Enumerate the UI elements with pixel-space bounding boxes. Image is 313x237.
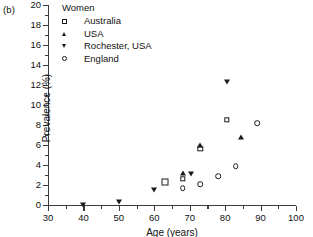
y-tick-18 — [43, 25, 48, 26]
data-point — [180, 176, 185, 181]
marker-filled-triangle-up — [62, 32, 66, 36]
data-point — [151, 188, 157, 193]
marker-filled-triangle-down — [224, 80, 230, 85]
data-point — [233, 163, 239, 169]
legend: Women AustraliaUSARochester, USAEngland — [62, 2, 152, 65]
x-tick-label-40: 40 — [78, 213, 89, 223]
legend-row-usa: USA — [62, 28, 152, 41]
y-minor-tick-19 — [45, 15, 48, 16]
legend-label: Rochester, USA — [76, 40, 152, 52]
marker-open-circle — [215, 173, 221, 179]
legend-label: USA — [76, 28, 104, 40]
marker-filled-triangle-down — [151, 188, 157, 193]
x-tick-label-70: 70 — [184, 213, 195, 223]
data-point — [224, 117, 229, 122]
legend-row-rochester-usa: Rochester, USA — [62, 40, 152, 53]
data-point — [254, 120, 260, 126]
data-point — [224, 80, 230, 85]
x-tick-label-50: 50 — [114, 213, 125, 223]
y-axis-title: Prevalence (%) — [41, 74, 52, 142]
data-point — [180, 185, 186, 191]
x-axis-title: Age (years) — [146, 227, 198, 237]
panel-label: (b) — [3, 4, 15, 15]
x-tick-50 — [119, 206, 120, 211]
marker-filled-triangle-down — [80, 203, 86, 208]
y-tick-label-2: 2 — [36, 180, 41, 190]
marker-open-circle — [233, 163, 239, 169]
x-tick-label-80: 80 — [220, 213, 231, 223]
figure-panel-b: (b) 02468101214161820 30405060708090100 … — [0, 0, 313, 237]
x-tick-80 — [225, 206, 226, 211]
data-point — [215, 173, 221, 179]
marker-open-circle — [180, 185, 186, 191]
y-tick-14 — [43, 65, 48, 66]
y-tick-6 — [43, 145, 48, 146]
marker-open-square — [161, 179, 168, 186]
y-tick-4 — [43, 165, 48, 166]
data-point — [238, 135, 244, 140]
x-tick-70 — [190, 206, 191, 211]
x-tick-30 — [48, 206, 49, 211]
data-point — [161, 179, 168, 186]
x-tick-label-30: 30 — [43, 213, 54, 223]
x-minor-tick-85 — [243, 206, 244, 209]
x-minor-tick-75 — [207, 206, 208, 209]
y-minor-tick-1 — [45, 195, 48, 196]
data-point — [198, 181, 204, 187]
y-tick-16 — [43, 45, 48, 46]
data-point — [197, 143, 203, 148]
marker-open-square — [62, 19, 67, 24]
marker-filled-triangle-up — [180, 171, 186, 176]
marker-open-square — [180, 176, 185, 181]
x-minor-tick-45 — [101, 206, 102, 209]
legend-row-england: England — [62, 53, 152, 66]
x-tick-100 — [296, 206, 297, 211]
legend-marker-usa — [62, 32, 76, 36]
y-tick-label-16: 16 — [30, 40, 41, 50]
legend-marker-england — [62, 56, 76, 61]
legend-label: England — [76, 53, 119, 65]
x-minor-tick-95 — [278, 206, 279, 209]
y-tick-label-4: 4 — [36, 160, 41, 170]
data-point — [188, 172, 194, 177]
y-tick-label-12: 12 — [30, 80, 41, 90]
x-tick-60 — [154, 206, 155, 211]
y-tick-label-10: 10 — [30, 100, 41, 110]
y-minor-tick-15 — [45, 55, 48, 56]
marker-open-square — [224, 117, 229, 122]
y-tick-2 — [43, 185, 48, 186]
y-tick-label-0: 0 — [36, 200, 41, 210]
x-tick-label-90: 90 — [255, 213, 266, 223]
y-minor-tick-3 — [45, 175, 48, 176]
data-point — [180, 171, 186, 176]
legend-row-australia: Australia — [62, 15, 152, 28]
marker-filled-triangle-down — [62, 44, 66, 48]
x-tick-label-100: 100 — [288, 213, 304, 223]
data-point — [80, 203, 86, 208]
x-minor-tick-65 — [172, 206, 173, 209]
legend-marker-australia — [62, 19, 76, 24]
marker-filled-triangle-down — [116, 200, 122, 205]
x-tick-label-60: 60 — [149, 213, 160, 223]
legend-marker-rochester — [62, 44, 76, 48]
y-tick-label-20: 20 — [30, 0, 41, 10]
marker-open-circle — [254, 120, 260, 126]
marker-filled-triangle-up — [238, 135, 244, 140]
marker-open-circle — [62, 56, 67, 61]
y-minor-tick-5 — [45, 155, 48, 156]
y-minor-tick-17 — [45, 35, 48, 36]
marker-filled-triangle-down — [188, 172, 194, 177]
x-tick-90 — [261, 206, 262, 211]
x-minor-tick-55 — [137, 206, 138, 209]
x-minor-tick-35 — [66, 206, 67, 209]
marker-filled-triangle-up — [197, 143, 203, 148]
y-tick-label-14: 14 — [30, 60, 41, 70]
legend-title: Women — [62, 2, 152, 14]
data-point — [116, 200, 122, 205]
marker-open-circle — [198, 181, 204, 187]
y-tick-20 — [43, 5, 48, 6]
legend-label: Australia — [76, 15, 121, 27]
y-tick-label-18: 18 — [30, 20, 41, 30]
